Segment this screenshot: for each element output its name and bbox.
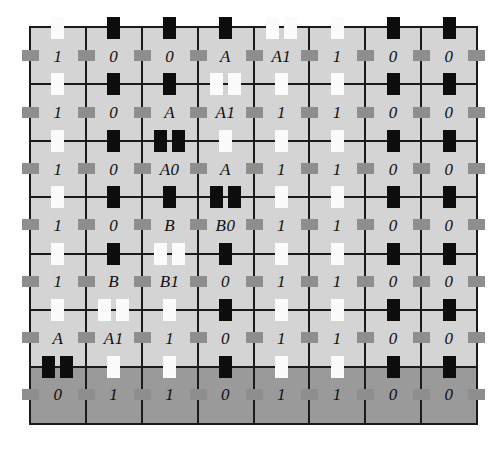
register-tick-gray <box>134 50 151 61</box>
register-mark-white <box>210 73 223 95</box>
register-mark-black <box>387 17 400 39</box>
register-tick-gray <box>468 219 485 230</box>
register-mark-black <box>443 186 456 208</box>
register-mark-black <box>107 17 120 39</box>
register-mark-black <box>60 356 73 378</box>
cell-label: 0 <box>109 48 118 65</box>
register-tick-gray <box>357 219 374 230</box>
register-mark-black <box>387 299 400 321</box>
cell-label: 0 <box>445 386 454 403</box>
register-tick-gray <box>357 163 374 174</box>
cell-label: 1 <box>53 161 62 178</box>
cell-label: B0 <box>216 217 236 234</box>
cell-label: A1 <box>271 48 291 65</box>
register-tick-gray <box>246 163 263 174</box>
register-mark-white <box>51 17 64 39</box>
cell-label: 1 <box>165 386 174 403</box>
cell-label: A0 <box>160 161 180 178</box>
register-tick-gray <box>357 389 374 400</box>
register-mark-black <box>42 356 55 378</box>
register-tick-gray <box>468 332 485 343</box>
cell-label: 1 <box>333 217 342 234</box>
cell-label: 0 <box>389 330 398 347</box>
register-tick-gray <box>468 107 485 118</box>
register-mark-black <box>163 17 176 39</box>
register-mark-white <box>331 299 344 321</box>
register-mark-black <box>219 17 232 39</box>
register-tick-gray <box>246 332 263 343</box>
cell-label: 0 <box>221 330 230 347</box>
cell-label: 1 <box>53 273 62 290</box>
register-mark-black <box>443 73 456 95</box>
register-tick-gray <box>468 50 485 61</box>
register-mark-white <box>154 243 167 265</box>
register-mark-black <box>107 73 120 95</box>
register-mark-black <box>387 243 400 265</box>
register-tick-gray <box>413 50 430 61</box>
register-tick-gray <box>246 50 263 61</box>
register-mark-black <box>163 73 176 95</box>
register-tick-gray <box>301 276 318 287</box>
register-mark-white <box>116 299 129 321</box>
grid-rule-horizontal <box>31 83 476 85</box>
register-mark-white <box>51 186 64 208</box>
cell-label: 1 <box>333 48 342 65</box>
grid-row: 10BB01100 <box>31 197 476 253</box>
cell-label: A <box>52 330 63 347</box>
cell-label: 1 <box>109 386 118 403</box>
cell-label: 0 <box>389 161 398 178</box>
register-tick-gray <box>22 276 39 287</box>
register-tick-gray <box>190 50 207 61</box>
register-tick-gray <box>22 219 39 230</box>
cell-label: 1 <box>333 104 342 121</box>
register-mark-white <box>331 17 344 39</box>
register-tick-gray <box>22 332 39 343</box>
encoded-grid-figure: 100AA110010AA1110010A0A110010BB011001BB1… <box>29 26 478 425</box>
cell-label: 1 <box>53 217 62 234</box>
cell-label: 0 <box>389 48 398 65</box>
cell-label: 0 <box>53 386 62 403</box>
register-tick-gray <box>78 107 95 118</box>
register-tick-gray <box>22 107 39 118</box>
register-tick-gray <box>190 276 207 287</box>
register-mark-black <box>443 243 456 265</box>
register-tick-gray <box>190 163 207 174</box>
register-tick-gray <box>301 219 318 230</box>
register-mark-white <box>163 356 176 378</box>
register-mark-black <box>387 130 400 152</box>
cell-label: A <box>164 104 175 121</box>
cell-label: 0 <box>445 48 454 65</box>
register-mark-black <box>387 356 400 378</box>
cell-label: 1 <box>333 386 342 403</box>
register-mark-black <box>443 356 456 378</box>
register-mark-white <box>228 73 241 95</box>
cell-label: 1 <box>333 330 342 347</box>
cell-label: 1 <box>53 48 62 65</box>
register-tick-gray <box>22 50 39 61</box>
cell-label: A1 <box>216 104 236 121</box>
cell-label: 1 <box>277 217 286 234</box>
grid-row: 1BB101100 <box>31 254 476 310</box>
register-tick-gray <box>78 219 95 230</box>
register-mark-black <box>443 299 456 321</box>
register-tick-gray <box>357 332 374 343</box>
cell-label: 0 <box>109 161 118 178</box>
register-mark-black <box>443 17 456 39</box>
register-tick-gray <box>357 276 374 287</box>
register-mark-white <box>266 17 279 39</box>
cell-label: B1 <box>160 273 180 290</box>
register-mark-black <box>163 186 176 208</box>
register-tick-gray <box>413 163 430 174</box>
register-tick-gray <box>301 107 318 118</box>
grid-rule-horizontal <box>31 140 476 142</box>
register-mark-black <box>219 243 232 265</box>
cell-label: 1 <box>277 161 286 178</box>
register-mark-white <box>275 186 288 208</box>
register-tick-gray <box>468 389 485 400</box>
register-tick-gray <box>134 219 151 230</box>
cell-label: 1 <box>277 386 286 403</box>
grid-row: 10AA11100 <box>31 84 476 140</box>
register-mark-black <box>219 356 232 378</box>
register-mark-white <box>172 243 185 265</box>
register-tick-gray <box>190 389 207 400</box>
